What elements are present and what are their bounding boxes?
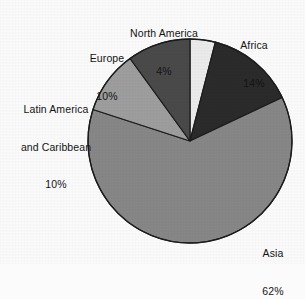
slice-label-europe: Europe 10% xyxy=(72,27,142,127)
slice-label-africa-name: Africa xyxy=(218,39,290,52)
slice-label-asia: Asia 62% xyxy=(246,222,300,299)
slice-label-latin-america-value: 10% xyxy=(2,178,110,191)
slice-label-africa-value: 14% xyxy=(218,77,290,90)
slice-label-asia-value: 62% xyxy=(246,285,300,298)
slice-label-latin-america-name-line2: and Caribbean xyxy=(2,141,110,154)
slice-label-europe-name: Europe xyxy=(72,52,142,65)
slice-label-africa: Africa 14% xyxy=(218,14,290,114)
slice-label-asia-name: Asia xyxy=(246,247,300,260)
slice-label-europe-value: 10% xyxy=(72,90,142,103)
